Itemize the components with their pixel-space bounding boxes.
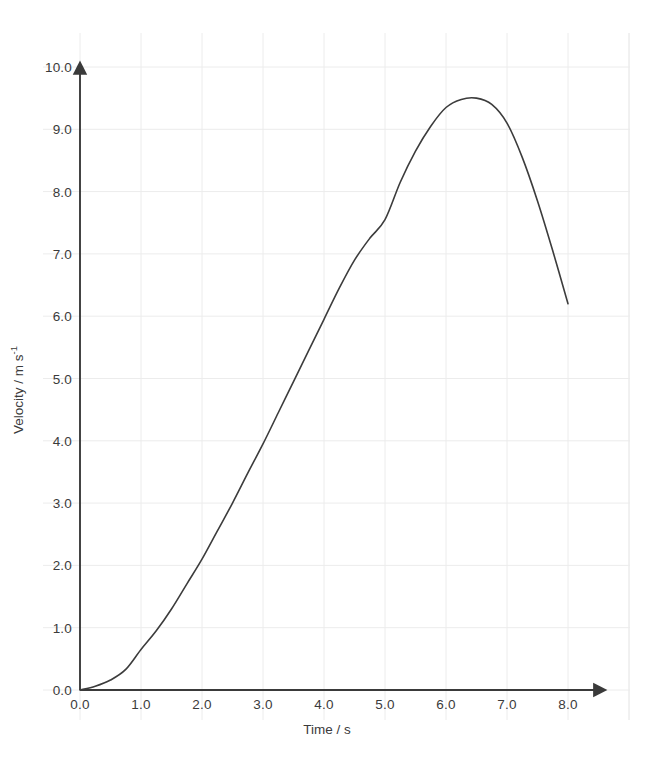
x-tick-label: 3.0 bbox=[253, 697, 272, 712]
y-tick-label: 10.0 bbox=[22, 60, 72, 75]
y-tick-label: 1.0 bbox=[22, 620, 72, 635]
x-tick-label: 4.0 bbox=[314, 697, 333, 712]
y-tick-label: 8.0 bbox=[22, 184, 72, 199]
y-tick-label: 7.0 bbox=[22, 246, 72, 261]
y-tick-label: 2.0 bbox=[22, 558, 72, 573]
y-tick-label: 0.0 bbox=[22, 683, 72, 698]
y-axis-label-text: Velocity / m s bbox=[11, 354, 26, 434]
y-axis-label-wrapper: Velocity / m s-1 bbox=[4, 310, 30, 470]
y-tick-label: 3.0 bbox=[22, 496, 72, 511]
x-tick-label: 7.0 bbox=[497, 697, 516, 712]
x-tick-label: 8.0 bbox=[558, 697, 577, 712]
x-axis-label: Time / s bbox=[0, 722, 654, 737]
x-tick-label: 2.0 bbox=[192, 697, 211, 712]
x-tick-label: 5.0 bbox=[375, 697, 394, 712]
y-tick-label: 9.0 bbox=[22, 122, 72, 137]
y-axis-label-exponent: -1 bbox=[8, 346, 19, 354]
axis-lines bbox=[80, 72, 596, 690]
gridlines bbox=[43, 33, 630, 720]
velocity-time-chart: 0.01.02.03.04.05.06.07.08.09.010.0 0.01.… bbox=[0, 0, 654, 758]
plot-area bbox=[0, 0, 654, 758]
y-axis-label: Velocity / m s-1 bbox=[8, 346, 26, 434]
x-tick-label: 6.0 bbox=[436, 697, 455, 712]
x-tick-label: 0.0 bbox=[70, 697, 89, 712]
x-tick-label: 1.0 bbox=[131, 697, 150, 712]
